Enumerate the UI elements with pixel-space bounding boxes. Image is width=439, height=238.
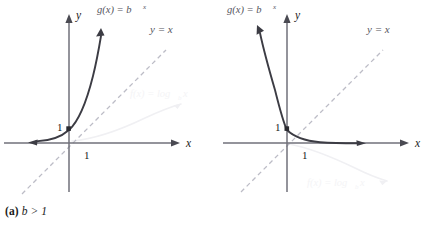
panel-b-graph: f(x) = log b x xyxy=(219,0,439,200)
y-axis-label-a: y xyxy=(75,9,82,22)
identity-label-b: y = x xyxy=(366,23,390,35)
ghost-log-label-a: f(x) = log b x xyxy=(130,88,188,102)
identity-label-a: y = x xyxy=(149,23,173,35)
y-axis-a xyxy=(65,14,72,192)
x-axis-label-a: x xyxy=(185,137,192,149)
caption-a-text: b > 1 xyxy=(22,205,48,217)
y-axis-b xyxy=(283,14,290,192)
y-tick-one-b: 1 xyxy=(275,121,281,133)
exponential-curve-b xyxy=(257,25,366,146)
exponential-curve-a xyxy=(28,28,105,145)
panel-a: f(x) = log b x xyxy=(0,0,219,238)
curve-label-a: g(x) = b x xyxy=(97,3,147,17)
y-axis-label-b: y xyxy=(294,9,301,22)
x-tick-one-b: 1 xyxy=(302,149,308,161)
panel-a-graph: f(x) = log b x xyxy=(0,0,219,200)
ghost-log-curve-a xyxy=(72,104,181,141)
curve-label-a-exponent: x xyxy=(142,3,147,11)
curve-label-b-exponent: x xyxy=(272,3,277,11)
svg-text:x: x xyxy=(359,177,365,188)
exponential-function-figure: f(x) = log b x xyxy=(0,0,439,238)
x-axis-b xyxy=(223,139,409,146)
svg-text:b: b xyxy=(178,94,182,102)
svg-text:x: x xyxy=(182,88,188,99)
curve-label-b-text: g(x) = b xyxy=(227,4,262,16)
y-tick-one-a: 1 xyxy=(57,121,63,133)
ghost-log-label-b: f(x) = log b x xyxy=(307,177,365,191)
curve-label-a-text: g(x) = b xyxy=(97,4,132,16)
panel-b: f(x) = log b x xyxy=(219,0,438,238)
point-zero-one-b xyxy=(285,126,290,131)
point-zero-one-a xyxy=(66,126,71,131)
svg-text:f(x) = log: f(x) = log xyxy=(130,88,170,100)
caption-a: (a) b > 1 xyxy=(5,205,47,217)
svg-text:b: b xyxy=(355,183,359,191)
x-axis-label-b: x xyxy=(414,137,421,149)
svg-text:f(x) = log: f(x) = log xyxy=(307,177,347,189)
caption-a-tag: (a) xyxy=(5,205,19,217)
curve-label-b: g(x) = b x xyxy=(227,3,277,17)
x-tick-one-a: 1 xyxy=(84,149,90,161)
